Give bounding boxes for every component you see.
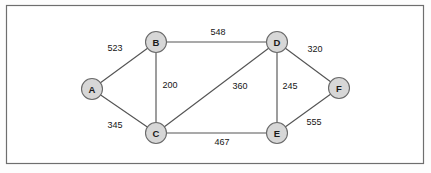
edge-weight-b-d: 548 xyxy=(210,27,225,37)
edge-weight-d-f: 320 xyxy=(307,44,322,54)
node-circle-e xyxy=(267,123,288,144)
graph-node-a: A xyxy=(82,79,103,100)
edge-weight-d-e: 245 xyxy=(282,81,297,91)
node-circle-c xyxy=(146,123,167,144)
node-circle-d xyxy=(267,32,288,53)
edge-weight-c-e: 467 xyxy=(214,137,229,147)
node-circle-a xyxy=(82,79,103,100)
graph-svg: ABCDEF 523345200548360467245320555 xyxy=(0,0,431,173)
graph-node-f: F xyxy=(329,78,350,99)
graph-node-c: C xyxy=(146,123,167,144)
node-circle-f xyxy=(329,78,350,99)
edge-weight-a-b: 523 xyxy=(107,43,122,53)
node-circle-b xyxy=(146,32,167,53)
graph-diagram-canvas: ABCDEF 523345200548360467245320555 xyxy=(0,0,431,173)
graph-node-d: D xyxy=(267,32,288,53)
graph-node-e: E xyxy=(267,123,288,144)
edge-weight-e-f: 555 xyxy=(306,117,321,127)
edge-weight-b-c: 200 xyxy=(162,80,177,90)
edge-weight-c-d: 360 xyxy=(232,81,247,91)
edge-weight-a-c: 345 xyxy=(107,120,122,130)
graph-node-b: B xyxy=(146,32,167,53)
